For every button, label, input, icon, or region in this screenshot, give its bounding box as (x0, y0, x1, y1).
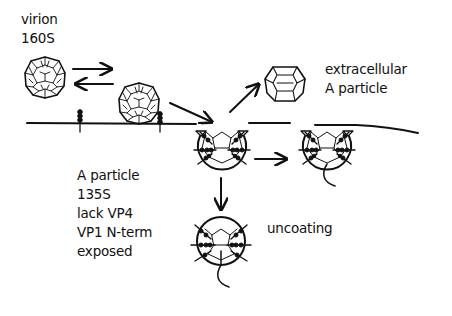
receptor-icon (78, 110, 83, 132)
a-particle-label-line2: 135S (77, 186, 111, 203)
bound-virion-icon (119, 83, 159, 124)
membrane-particle-rna-release-icon (299, 131, 355, 186)
virion-label: virion (21, 11, 58, 28)
a-particle-label-line4: VP1 N-term (77, 224, 152, 241)
membrane-a-particle-icon (194, 131, 250, 170)
virion-160s-icon (25, 57, 65, 98)
uncoating-label: uncoating (267, 220, 332, 237)
virion-sedimentation-label: 160S (21, 30, 55, 47)
cell-membrane (27, 123, 418, 133)
a-particle-label-line3: lack VP4 (77, 205, 133, 222)
release-arrow (230, 84, 259, 112)
uncoating-particle-icon (191, 217, 251, 287)
a-particle-label-line1: A particle (77, 167, 139, 184)
conversion-arrow (170, 103, 212, 122)
diagram-canvas (0, 0, 452, 316)
a-particle-label-line5: exposed (77, 243, 132, 260)
extracellular-label-line2: A particle (325, 80, 387, 97)
extracellular-label-line1: extracellular (325, 61, 407, 78)
receptor-icon (158, 112, 163, 132)
extracellular-a-particle-icon (265, 67, 305, 101)
